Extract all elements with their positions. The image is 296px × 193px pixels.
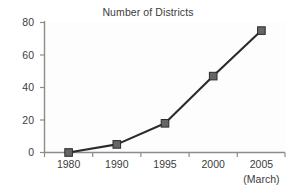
x-tick-label-2005: 2005 [234, 158, 288, 170]
y-tick-label-0: 0 [4, 147, 34, 158]
x-tick-label-1980: 1980 [42, 158, 96, 170]
y-tick-label-40: 40 [4, 82, 34, 93]
data-point-1980 [65, 149, 73, 157]
data-point-1995 [161, 120, 169, 128]
y-tick-label-80: 80 [4, 17, 34, 28]
x-tick-label-1995: 1995 [138, 158, 192, 170]
data-point-1990 [113, 141, 121, 149]
x-tick-label-1990: 1990 [90, 158, 144, 170]
x-tick-label-2000: 2000 [186, 158, 240, 170]
x-axis-note: (March) [234, 173, 288, 185]
y-tick-label-20: 20 [4, 115, 34, 126]
data-point-2005 [258, 27, 266, 35]
data-markers [65, 27, 265, 157]
y-axis-ticks [40, 23, 44, 153]
chart-container: Number of Districts [0, 0, 296, 193]
data-line-series-1 [69, 31, 262, 153]
y-tick-label-60: 60 [4, 50, 34, 61]
data-point-2000 [209, 72, 217, 80]
